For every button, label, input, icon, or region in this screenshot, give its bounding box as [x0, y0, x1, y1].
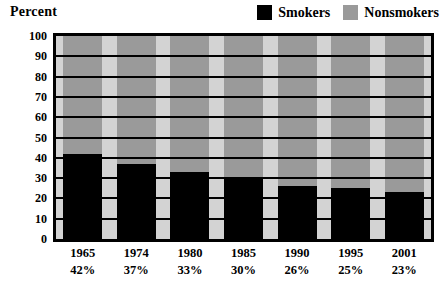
y-axis-tick-mark [424, 157, 431, 159]
y-axis-title: Percent [10, 4, 57, 20]
x-axis-year-label: 1995 [324, 245, 378, 262]
bar-segment-smokers [117, 164, 156, 239]
bar-segment-smokers [224, 178, 263, 239]
bar-segment-smokers [170, 172, 209, 239]
y-axis-tick-label: 100 [5, 30, 47, 42]
x-axis-percent-label: 26% [270, 262, 324, 279]
y-axis-tick-mark [424, 116, 431, 118]
x-axis-year-label: 1990 [270, 245, 324, 262]
y-axis-tick-label: 20 [5, 192, 47, 204]
x-axis-label-group: 198033% [163, 245, 217, 279]
x-axis-year-label: 2001 [377, 245, 431, 262]
y-axis-tick-label: 0 [5, 233, 47, 245]
y-axis-tick-mark [56, 96, 63, 98]
gridline [56, 116, 431, 118]
legend-swatch-gray-icon [343, 5, 358, 20]
y-axis-tick-mark [424, 55, 431, 57]
y-axis-tick-mark [424, 137, 431, 139]
gridline [56, 96, 431, 98]
y-axis-tick-mark [56, 218, 63, 220]
y-axis-tick-mark [56, 55, 63, 57]
y-axis-tick-label: 70 [5, 91, 47, 103]
y-axis-tick-mark [56, 157, 63, 159]
x-axis-label-group: 197437% [110, 245, 164, 279]
x-axis-label-group: 198530% [217, 245, 271, 279]
bar-segment-nonsmokers [331, 36, 370, 188]
y-axis-tick-mark [424, 177, 431, 179]
legend-label-nonsmokers: Nonsmokers [364, 6, 439, 20]
x-axis-label-group: 199026% [270, 245, 324, 279]
x-axis-percent-label: 25% [324, 262, 378, 279]
y-axis-tick-label: 60 [5, 111, 47, 123]
y-axis-tick-mark [424, 76, 431, 78]
x-axis-percent-label: 30% [217, 262, 271, 279]
y-axis-tick-label: 30 [5, 172, 47, 184]
y-axis-tick-mark [56, 137, 63, 139]
gridline [56, 137, 431, 139]
plot-inner [56, 36, 431, 239]
gridline [56, 76, 431, 78]
y-axis-tick-label: 90 [5, 50, 47, 62]
x-axis-percent-label: 33% [163, 262, 217, 279]
legend-swatch-black-icon [257, 5, 272, 20]
chart-container: Percent Smokers Nonsmokers 1009080706050… [0, 0, 445, 291]
y-axis-tick-mark [56, 76, 63, 78]
bar-segment-nonsmokers [385, 36, 424, 192]
x-axis-label-group: 200123% [377, 245, 431, 279]
y-axis-tick-label: 40 [5, 152, 47, 164]
y-axis-tick-label: 50 [5, 132, 47, 144]
y-axis-tick-mark [56, 116, 63, 118]
y-axis-tick-mark [424, 197, 431, 199]
legend-label-smokers: Smokers [278, 6, 330, 20]
y-axis-tick-label: 80 [5, 71, 47, 83]
y-axis-tick-mark [56, 197, 63, 199]
x-axis-percent-label: 37% [110, 262, 164, 279]
chart-legend: Smokers Nonsmokers [257, 5, 439, 20]
x-axis-percent-label: 23% [377, 262, 431, 279]
x-axis-label-group: 196542% [56, 245, 110, 279]
gridline [56, 197, 431, 199]
y-axis-tick-mark [56, 177, 63, 179]
gridline [56, 55, 431, 57]
x-axis-year-label: 1965 [56, 245, 110, 262]
x-axis-labels: 196542%197437%198033%198530%199026%19952… [53, 245, 434, 289]
legend-entry-nonsmokers: Nonsmokers [343, 5, 439, 20]
gridline [56, 177, 431, 179]
x-axis-year-label: 1974 [110, 245, 164, 262]
bar-segment-smokers [278, 186, 317, 239]
gridline [56, 218, 431, 220]
x-axis-percent-label: 42% [56, 262, 110, 279]
legend-entry-smokers: Smokers [257, 5, 330, 20]
plot-area [53, 33, 434, 242]
x-axis-year-label: 1980 [163, 245, 217, 262]
x-axis-label-group: 199525% [324, 245, 378, 279]
y-axis-tick-mark [424, 96, 431, 98]
bar-segment-nonsmokers [278, 36, 317, 186]
x-axis-year-label: 1985 [217, 245, 271, 262]
gridline [56, 157, 431, 159]
y-axis-tick-label: 10 [5, 213, 47, 225]
bar-segment-smokers [331, 188, 370, 239]
y-axis-tick-mark [424, 218, 431, 220]
